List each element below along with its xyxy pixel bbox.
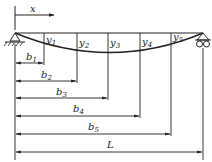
beam-diagram: x y1 y2 y3 y4 y5: [0, 0, 212, 162]
label-b5: b5: [88, 121, 99, 134]
dimension-labels: b1 b2 b3 b4 b5 L: [26, 51, 114, 150]
x-axis-arrow: x: [15, 3, 54, 30]
label-b3: b3: [56, 86, 67, 99]
label-y3: y3: [109, 37, 121, 50]
x-axis-label: x: [30, 3, 36, 14]
label-L: L: [106, 139, 114, 150]
pinned-support-icon: [4, 33, 25, 46]
label-y4: y4: [141, 36, 152, 49]
label-b1: b1: [26, 51, 37, 64]
label-y2: y2: [78, 37, 90, 50]
deflection-labels: y1 y2 y3 y4 y5: [45, 31, 184, 50]
label-b4: b4: [73, 103, 84, 116]
label-b2: b2: [41, 69, 52, 82]
